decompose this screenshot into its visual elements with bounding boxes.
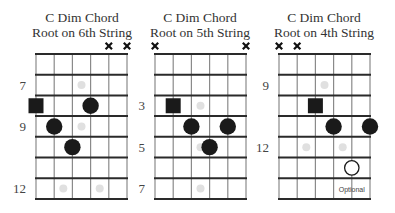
- muted-string-x-icon: [106, 43, 112, 49]
- muted-string-x-icon: [243, 43, 249, 49]
- fret-number-label: 7: [139, 181, 146, 196]
- fret-number-label: 5: [139, 140, 146, 155]
- root-note-square: [308, 98, 323, 113]
- fret-number-label: 12: [256, 140, 269, 155]
- chord-note-dot: [82, 98, 98, 114]
- fretboard: 357: [135, 0, 265, 213]
- chord-note-dot: [325, 118, 341, 134]
- fret-inlay-dot: [321, 81, 329, 89]
- chord-diagram-root-5th: C Dim Chord Root on 5th String 357: [135, 0, 265, 213]
- muted-string-x-icon: [124, 43, 130, 49]
- fret-inlay-dot: [302, 143, 310, 151]
- fret-inlay-dot: [78, 122, 86, 130]
- fret-inlay-dot: [197, 185, 205, 193]
- chord-note-dot: [201, 139, 217, 155]
- fret-number-label: 3: [139, 98, 146, 113]
- fret-inlay-dot: [78, 81, 86, 89]
- fretboard: 7912: [17, 0, 147, 213]
- chord-diagram-root-6th: C Dim Chord Root on 6th String 7912: [17, 0, 147, 213]
- muted-string-x-icon: [294, 43, 300, 49]
- optional-label: Optional: [339, 186, 366, 194]
- fret-number-label: 7: [20, 78, 27, 93]
- chord-note-dot: [64, 139, 80, 155]
- chord-note-dot: [220, 118, 236, 134]
- fret-inlay-dot: [59, 185, 67, 193]
- fret-number-label: 12: [13, 181, 26, 196]
- chord-note-dot: [46, 118, 62, 134]
- fret-inlay-dot: [339, 143, 347, 151]
- muted-string-x-icon: [152, 43, 158, 49]
- chord-diagram-root-4th: C Dim Chord Root on 4th String 912Option…: [259, 0, 389, 213]
- fretboard: 912Optional: [259, 0, 389, 213]
- root-note-square: [166, 98, 181, 113]
- optional-note-circle: [345, 161, 359, 175]
- fret-number-label: 9: [263, 78, 270, 93]
- fret-number-label: 9: [20, 119, 27, 134]
- chord-note-dot: [362, 118, 378, 134]
- fret-inlay-dot: [197, 102, 205, 110]
- root-note-square: [29, 98, 44, 113]
- fret-inlay-dot: [96, 185, 104, 193]
- muted-string-x-icon: [276, 43, 282, 49]
- chord-note-dot: [183, 118, 199, 134]
